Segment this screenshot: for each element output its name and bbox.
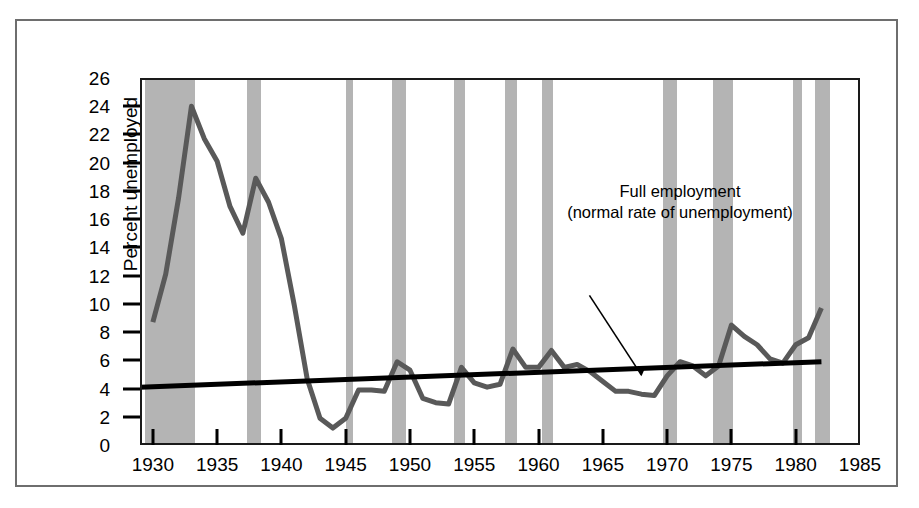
x-tick-label: 1955 [453,454,495,476]
x-tick-label: 1935 [196,454,238,476]
y-tick-label: 26 [89,69,110,88]
unemployment-rate-line [153,106,822,428]
y-tick-label: 8 [99,323,110,342]
y-tick-mark [123,331,140,334]
y-tick-label: 16 [89,210,110,229]
y-tick-label: 4 [99,379,110,398]
full-employment-annotation: Full employment (normal rate of unemploy… [535,181,825,223]
x-tick-mark [280,429,283,445]
y-tick-label: 0 [99,436,110,455]
plot-area [140,78,860,445]
figure-frame: 02468101214161820222426 Percent unemploy… [15,19,898,487]
x-tick-label: 1985 [839,454,881,476]
annotation-arrow-line [589,295,641,375]
x-tick-mark [473,429,476,445]
y-tick-label: 6 [99,351,110,370]
x-tick-mark [537,429,540,445]
x-tick-label: 1950 [389,454,431,476]
x-tick-mark [601,429,604,445]
chart-lines [140,78,860,445]
y-tick-label: 10 [89,294,110,313]
x-tick-label: 1930 [132,454,174,476]
x-tick-mark [409,429,412,445]
y-tick-label: 24 [89,97,110,116]
x-tick-label: 1980 [775,454,817,476]
y-tick-label: 18 [89,181,110,200]
x-tick-mark [730,429,733,445]
y-axis-label: Percent unemployed [120,64,142,304]
x-tick-mark [794,429,797,445]
x-tick-mark [216,429,219,445]
y-tick-label: 2 [99,407,110,426]
y-tick-mark [123,415,140,418]
x-tick-label: 1945 [325,454,367,476]
x-tick-mark [151,429,154,445]
x-tick-label: 1975 [710,454,752,476]
x-tick-mark [666,429,669,445]
x-axis: 1930193519401945195019551960196519701975… [140,445,860,505]
x-tick-label: 1940 [260,454,302,476]
y-tick-label: 12 [89,266,110,285]
x-tick-label: 1970 [646,454,688,476]
y-tick-label: 20 [89,153,110,172]
y-tick-mark [123,387,140,390]
x-tick-mark [344,429,347,445]
annotation-line-1: Full employment [535,181,825,202]
x-tick-label: 1960 [517,454,559,476]
y-tick-label: 22 [89,125,110,144]
figure-root: 02468101214161820222426 Percent unemploy… [0,0,919,508]
y-tick-label: 14 [89,238,110,257]
annotation-line-2: (normal rate of unemployment) [535,202,825,223]
x-tick-label: 1965 [582,454,624,476]
y-tick-mark [123,359,140,362]
